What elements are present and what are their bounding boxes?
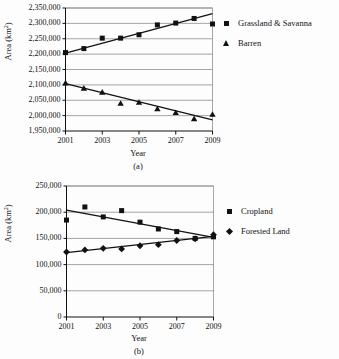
data-point-cropland [174, 229, 179, 234]
y-tick-label: 2,200,000 [0, 49, 61, 58]
x-tick-label: 2003 [82, 136, 122, 145]
legend-label-cropland: Cropland [241, 206, 273, 217]
chart-a-x-axis-title: Year [78, 148, 198, 158]
chart-b-y-axis-title: Area (km2) [3, 183, 14, 263]
data-point-barren [62, 80, 68, 86]
data-point-cropland [138, 220, 143, 225]
x-tick-label: 2005 [119, 136, 159, 145]
data-point-cropland [156, 226, 161, 231]
data-point-grassland-savanna [118, 36, 123, 41]
y-tick-label: 2,150,000 [0, 65, 61, 74]
data-point-cropland [119, 208, 124, 213]
y-tick-label: 0 [0, 312, 62, 321]
x-tick-label: 2005 [120, 322, 160, 331]
data-point-grassland-savanna [210, 21, 215, 26]
chart-a-legend: Grassland & SavannaBarren [222, 18, 312, 58]
x-tick-label: 2001 [47, 322, 87, 331]
y-tick-label: 250,000 [0, 181, 62, 190]
y-tick-label: 150,000 [0, 233, 62, 242]
y-tick-label: 50,000 [0, 286, 62, 295]
chart-b-panel-label: (b) [79, 346, 199, 356]
chart-b-legend: CroplandForested Land [225, 206, 290, 246]
chart-panel-a: Area (km2) Year (a) Grassland & SavannaB… [0, 0, 339, 180]
y-tick-label: 100,000 [0, 260, 62, 269]
y-tick-label: 2,000,000 [0, 111, 61, 120]
data-point-forested-land [81, 247, 88, 254]
data-point-cropland [64, 218, 69, 223]
data-point-cropland [82, 204, 87, 209]
square-glyph [224, 21, 229, 26]
triangle-marker-icon [222, 38, 233, 49]
data-point-grassland-savanna [192, 16, 197, 21]
data-point-grassland-savanna [137, 32, 142, 37]
data-point-grassland-savanna [63, 50, 68, 55]
data-point-barren [117, 100, 123, 106]
figure-two-panel-chart: Area (km2) Year (a) Grassland & SavannaB… [0, 0, 339, 359]
y-tick-label: 200,000 [0, 207, 62, 216]
square-marker-icon [225, 206, 236, 217]
y-tick-label: 2,300,000 [0, 18, 61, 27]
chart-b-x-axis-title: Year [79, 333, 199, 343]
x-tick-label: 2009 [193, 136, 233, 145]
x-tick-label: 2009 [194, 322, 234, 331]
legend-label-barren: Barren [238, 38, 261, 49]
x-tick-label: 2007 [157, 322, 197, 331]
x-tick-label: 2001 [46, 136, 86, 145]
y-tick-label: 2,350,000 [0, 3, 61, 12]
legend-item-cropland: Cropland [225, 206, 290, 217]
data-point-forested-land [63, 249, 70, 256]
legend-label-grassland-savanna: Grassland & Savanna [238, 18, 312, 29]
data-point-grassland-savanna [81, 46, 86, 51]
y-tick-label: 2,250,000 [0, 34, 61, 43]
x-tick-label: 2007 [156, 136, 196, 145]
data-point-forested-land [100, 245, 107, 252]
chart-panel-b: Area (km2) Year (b) CroplandForested Lan… [0, 178, 339, 359]
square-glyph [227, 209, 232, 214]
legend-label-forested-land: Forested Land [241, 226, 290, 237]
x-tick-label: 2003 [83, 322, 123, 331]
legend-item-grassland-savanna: Grassland & Savanna [222, 18, 312, 29]
data-point-cropland [101, 214, 106, 219]
chart-a-panel-label: (a) [78, 161, 198, 171]
data-point-forested-land [137, 242, 144, 249]
data-point-grassland-savanna [173, 21, 178, 26]
y-tick-label: 2,050,000 [0, 95, 61, 104]
diamond-glyph [226, 228, 233, 235]
data-point-grassland-savanna [100, 36, 105, 41]
triangle-glyph [223, 40, 229, 46]
diamond-marker-icon [225, 226, 236, 237]
legend-item-barren: Barren [222, 38, 312, 49]
data-point-grassland-savanna [155, 22, 160, 27]
y-tick-label: 1,950,000 [0, 126, 61, 135]
y-tick-label: 2,100,000 [0, 80, 61, 89]
data-point-barren [209, 111, 215, 117]
legend-item-forested-land: Forested Land [225, 226, 290, 237]
square-marker-icon [222, 18, 233, 29]
